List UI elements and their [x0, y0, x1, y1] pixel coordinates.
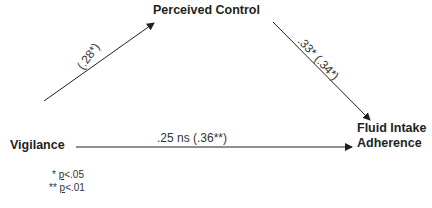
outcome-label-line2: Adherence	[357, 136, 426, 151]
footnote-p01: ** p<.01	[49, 181, 85, 194]
footnote-p05: * p<.05	[52, 168, 84, 181]
outcome-label-line1: Fluid Intake	[357, 121, 426, 136]
node-vigilance: Vigilance	[10, 138, 65, 153]
node-fluid-intake-adherence: Fluid Intake Adherence	[357, 121, 426, 151]
footnote-marker: **	[49, 182, 60, 193]
label-c-path: .25 ns (.36**)	[157, 131, 227, 145]
arrow-vigilance-to-control	[44, 23, 154, 101]
footnote-threshold: <.05	[64, 169, 84, 180]
footnote-marker: *	[52, 169, 59, 180]
footnote-threshold: <.01	[65, 182, 85, 193]
node-perceived-control: Perceived Control	[153, 3, 260, 18]
